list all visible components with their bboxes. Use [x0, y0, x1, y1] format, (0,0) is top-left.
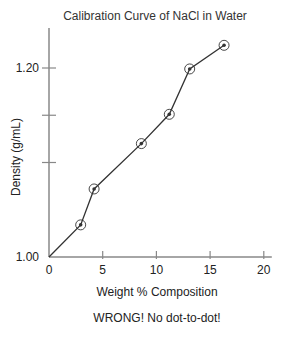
data-markers — [76, 40, 229, 230]
ticks: 051015201.001.20 — [16, 61, 271, 277]
data-point — [188, 67, 192, 71]
data-point — [92, 187, 96, 191]
x-tick-label: 20 — [257, 263, 271, 277]
data-point — [140, 142, 144, 146]
y-axis-label: Density (g/mL) — [9, 118, 23, 196]
x-tick-label: 0 — [46, 263, 53, 277]
data-point — [222, 44, 226, 48]
calibration-chart: Calibration Curve of NaCl in Water 05101… — [0, 0, 282, 350]
y-tick-label: 1.00 — [16, 250, 40, 264]
axes — [49, 28, 272, 257]
chart-title: Calibration Curve of NaCl in Water — [63, 9, 247, 23]
y-tick-label: 1.20 — [16, 61, 40, 75]
x-axis-label: Weight % Composition — [96, 285, 217, 299]
x-tick-label: 5 — [99, 263, 106, 277]
x-tick-label: 10 — [150, 263, 164, 277]
chart-caption: WRONG! No dot-to-dot! — [93, 311, 220, 325]
data-point — [79, 223, 83, 227]
data-point — [167, 113, 171, 117]
x-tick-label: 15 — [203, 263, 217, 277]
